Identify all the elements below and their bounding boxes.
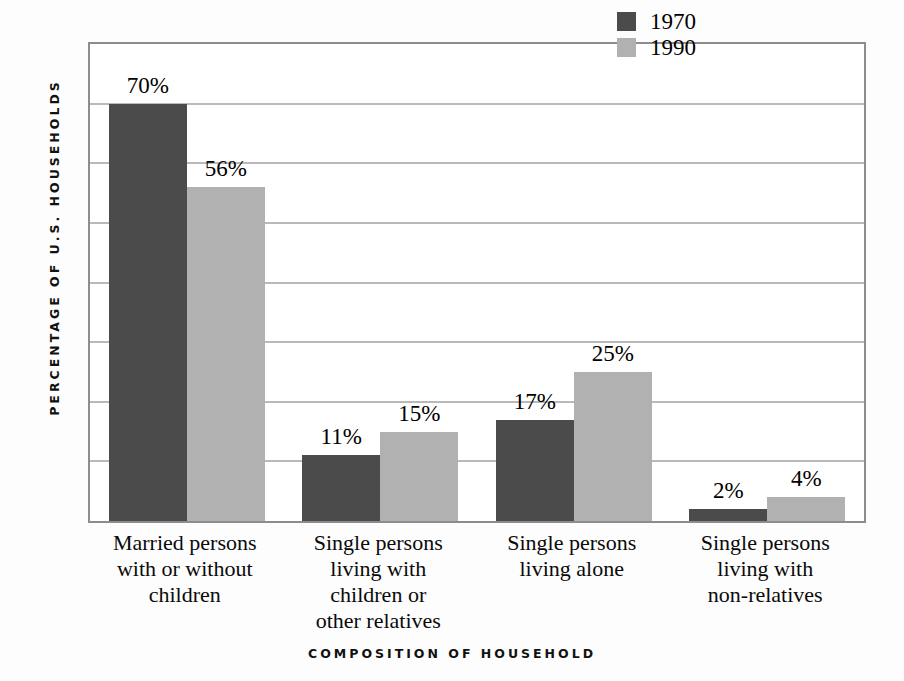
plot-inner: 70%11%17%2%56%15%25%4% (90, 44, 864, 521)
chart-legend: 1970 1990 (617, 8, 757, 60)
x-axis-title: COMPOSITION OF HOUSEHOLD (0, 646, 904, 661)
bar-value-label-1970-group-1: 70% (97, 73, 199, 99)
bar-value-label-1970-group-2: 11% (290, 424, 392, 450)
bar-value-label-1970-group-3: 17% (484, 389, 586, 415)
x-category-label-3: Single personsliving alone (475, 530, 669, 582)
x-category-label-line: Single persons (669, 530, 863, 556)
legend-item-1970[interactable]: 1970 (617, 8, 757, 34)
bar-value-label-1990-group-1: 56% (175, 156, 277, 182)
bar-value-label-1990-group-2: 15% (368, 401, 470, 427)
x-category-label-4: Single personsliving withnon-relatives (669, 530, 863, 608)
legend-swatch-icon-1970 (617, 12, 636, 31)
bar-1970-group-4 (689, 509, 767, 521)
x-category-label-1: Married personswith or withoutchildren (88, 530, 282, 608)
x-category-label-line: children or (282, 582, 476, 608)
y-axis-title: PERCENTAGE OF U.S. HOUSEHOLDS (47, 18, 62, 478)
x-category-label-line: non-relatives (669, 582, 863, 608)
x-category-label-line: Married persons (88, 530, 282, 556)
x-category-label-line: children (88, 582, 282, 608)
x-category-label-line: living with (282, 556, 476, 582)
legend-label-1970: 1970 (650, 10, 696, 33)
chart-page: PERCENTAGE OF U.S. HOUSEHOLDS 70%11%17%2… (0, 0, 904, 681)
bar-value-label-1990-group-3: 25% (562, 341, 664, 367)
x-category-label-2: Single personsliving withchildren orothe… (282, 530, 476, 634)
x-category-label-line: Single persons (282, 530, 476, 556)
legend-swatch-icon-1990 (617, 38, 636, 57)
bar-1970-group-2 (302, 455, 380, 521)
x-category-label-line: Single persons (475, 530, 669, 556)
x-category-label-line: other relatives (282, 608, 476, 634)
bar-1990-group-1 (187, 187, 265, 521)
legend-label-1990: 1990 (650, 36, 696, 59)
bar-value-label-1990-group-4: 4% (755, 466, 857, 492)
x-category-label-line: living alone (475, 556, 669, 582)
legend-item-1990[interactable]: 1990 (617, 34, 757, 60)
x-category-label-line: living with (669, 556, 863, 582)
x-category-labels: Married personswith or withoutchildrenSi… (88, 530, 866, 640)
plot-area: 70%11%17%2%56%15%25%4% (88, 42, 866, 523)
gridline (90, 103, 864, 105)
x-category-label-line: with or without (88, 556, 282, 582)
bar-1970-group-3 (496, 420, 574, 521)
